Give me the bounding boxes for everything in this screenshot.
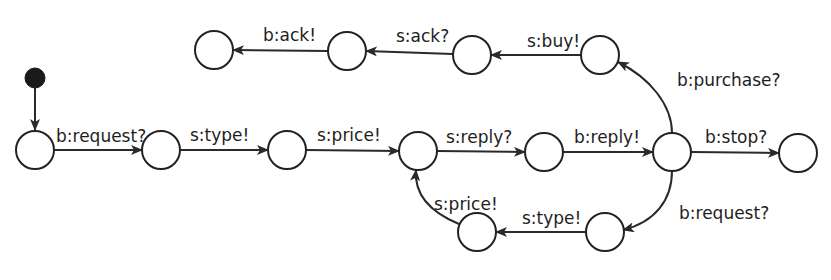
label-s-type: s:type! bbox=[190, 125, 249, 145]
state-q8 bbox=[453, 36, 491, 74]
edge-q2-q3 bbox=[306, 150, 399, 151]
label-b-ack: b:ack! bbox=[263, 25, 316, 45]
label-b-request: b:request? bbox=[56, 126, 146, 146]
state-q4 bbox=[525, 133, 563, 171]
state-q11 bbox=[586, 213, 624, 251]
edge-q9-q10 bbox=[233, 50, 328, 51]
edge-q5-q7 bbox=[618, 62, 672, 133]
state-q9 bbox=[328, 32, 366, 70]
edge-q8-q9 bbox=[366, 51, 453, 54]
edge-q5-q11 bbox=[623, 171, 672, 230]
label-b-request-loop: b:request? bbox=[679, 203, 769, 223]
state-q12 bbox=[458, 213, 496, 251]
label-s-type-loop: s:type! bbox=[522, 208, 581, 228]
state-q6 bbox=[779, 134, 817, 172]
state-machine-diagram: b:request? s:type! s:price! s:reply? b:r… bbox=[0, 0, 831, 280]
state-q1 bbox=[142, 131, 180, 169]
label-s-price-loop: s:price! bbox=[434, 194, 498, 214]
state-q3 bbox=[399, 132, 437, 170]
state-q5 bbox=[653, 133, 691, 171]
edge-q3-q4 bbox=[437, 151, 525, 152]
state-q7 bbox=[581, 36, 619, 74]
label-s-buy: s:buy! bbox=[527, 31, 580, 51]
state-q2 bbox=[268, 131, 306, 169]
initial-state-dot bbox=[25, 68, 45, 88]
label-s-reply: s:reply? bbox=[446, 127, 512, 147]
label-b-purchase: b:purchase? bbox=[677, 70, 781, 90]
label-b-reply: b:reply! bbox=[574, 127, 640, 147]
state-q10 bbox=[195, 31, 233, 69]
label-b-stop: b:stop? bbox=[705, 127, 767, 147]
edge-q5-q6 bbox=[691, 152, 779, 153]
label-s-price: s:price! bbox=[317, 125, 381, 145]
state-q0 bbox=[16, 131, 54, 169]
label-s-ack: s:ack? bbox=[396, 26, 449, 46]
